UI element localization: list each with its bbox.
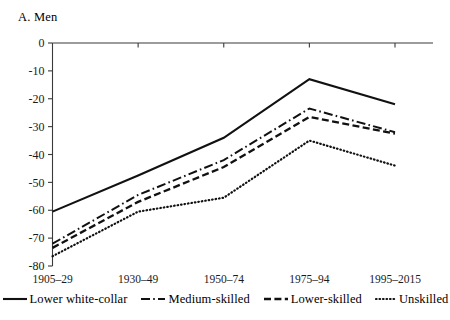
y-tick-label: -50: [29, 176, 45, 190]
legend-label: Unskilled: [399, 292, 449, 306]
legend-swatch-solid-icon: [2, 294, 28, 304]
series-line-unskilled: [53, 141, 396, 257]
legend-item-unskilled[interactable]: Unskilled: [375, 292, 449, 306]
legend-label: Lower-skilled: [291, 292, 362, 306]
chart-legend: Lower white-collarMedium-skilledLower-sk…: [0, 292, 450, 306]
legend-label: Lower white-collar: [30, 292, 128, 306]
legend-label: Medium-skilled: [168, 292, 249, 306]
y-tick-label: -80: [29, 259, 45, 273]
x-tick-label: 1975–94: [289, 273, 330, 285]
line-chart-plot: 0-10-20-30-40-50-60-70-801905–291930–491…: [0, 0, 450, 320]
y-tick-label: -30: [29, 120, 45, 134]
legend-item-lower-white-collar[interactable]: Lower white-collar: [2, 292, 128, 306]
chart-figure: A. Men 0-10-20-30-40-50-60-70-801905–291…: [0, 0, 450, 320]
y-tick-label: -40: [29, 148, 45, 162]
series-line-lower-white-collar: [53, 79, 396, 211]
y-tick-label: -60: [29, 203, 45, 217]
legend-item-medium-skilled[interactable]: Medium-skilled: [140, 292, 249, 306]
y-tick-label: -70: [29, 231, 45, 245]
legend-swatch-dashed-icon: [263, 294, 289, 304]
x-tick-label: 1905–29: [32, 273, 73, 285]
y-tick-label: -20: [29, 92, 45, 106]
y-tick-label: 0: [39, 36, 45, 50]
legend-swatch-dotted-icon: [375, 294, 397, 304]
legend-swatch-dash-dot-icon: [140, 294, 166, 304]
x-tick-label: 1950–74: [204, 273, 245, 285]
y-tick-label: -10: [29, 64, 45, 78]
x-tick-label: 1930–49: [118, 273, 159, 285]
x-tick-label: 1995–2015: [369, 273, 421, 285]
series-line-medium-skilled: [53, 109, 396, 244]
legend-item-lower-skilled[interactable]: Lower-skilled: [263, 292, 362, 306]
